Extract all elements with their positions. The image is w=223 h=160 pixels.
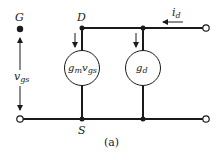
id-label: id [172, 6, 181, 20]
drain-label: D [76, 11, 86, 24]
source-junction [141, 117, 146, 122]
drain-terminal [203, 25, 209, 31]
source-right-terminal [203, 116, 209, 122]
source-node [80, 117, 85, 122]
source-label: S [78, 124, 86, 137]
gate-node [17, 26, 23, 32]
gate-label: G [15, 11, 24, 24]
figure-caption: (a) [104, 136, 119, 149]
circuit-diagram: G vgs D id gmvgs gd S (a) [0, 0, 223, 160]
source-left-terminal [17, 116, 23, 122]
vgs-label: vgs [14, 70, 29, 84]
